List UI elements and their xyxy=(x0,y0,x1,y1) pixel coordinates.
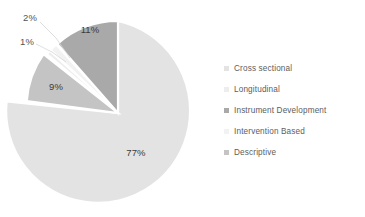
legend-label-cross-sectional: Cross sectional xyxy=(234,64,292,73)
pie-label-descriptive: 9% xyxy=(49,81,63,92)
pie-chart-figure: 77% 11% 9% 2% 1% Cross sectional Longitu… xyxy=(0,0,365,217)
legend-swatch-descriptive xyxy=(224,150,229,155)
legend-swatch-cross-sectional xyxy=(224,66,229,71)
chart-legend: Cross sectional Longitudinal Instrument … xyxy=(224,58,364,163)
legend-swatch-longitudinal xyxy=(224,87,229,92)
pie-label-intervention-based: 2% xyxy=(23,12,37,23)
legend-swatch-instrument-development xyxy=(224,108,229,113)
legend-item-instrument-development[interactable]: Instrument Development xyxy=(224,100,364,121)
pie-label-instrument-development: 11% xyxy=(81,24,100,35)
pie-label-cross-sectional: 77% xyxy=(126,147,146,158)
legend-label-longitudinal: Longitudinal xyxy=(234,85,280,94)
legend-item-longitudinal[interactable]: Longitudinal xyxy=(224,79,364,100)
legend-label-instrument-development: Instrument Development xyxy=(234,106,327,115)
legend-item-cross-sectional[interactable]: Cross sectional xyxy=(224,58,364,79)
legend-label-intervention-based: Intervention Based xyxy=(234,127,305,136)
legend-item-intervention-based[interactable]: Intervention Based xyxy=(224,121,364,142)
pie-label-longitudinal: 1% xyxy=(20,36,34,47)
legend-item-descriptive[interactable]: Descriptive xyxy=(224,142,364,163)
pie-slices xyxy=(6,21,190,203)
legend-swatch-intervention-based xyxy=(224,129,229,134)
legend-label-descriptive: Descriptive xyxy=(234,148,276,157)
